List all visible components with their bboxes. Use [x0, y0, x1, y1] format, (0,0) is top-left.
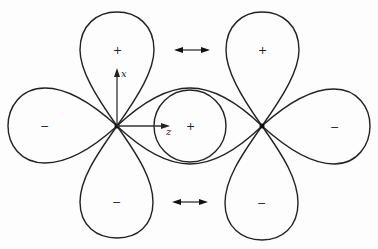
left-bottom-lobe: [80, 126, 153, 238]
left-bottom-sign: −: [112, 196, 121, 209]
right-bottom-lobe: [225, 126, 298, 240]
center-sign: +: [186, 120, 195, 133]
x-axis-label: x: [121, 68, 127, 79]
right-right-sign: −: [330, 121, 339, 134]
x-axis-arrowhead: [114, 68, 120, 77]
bottom-double-arrow: [172, 199, 208, 205]
right-right-lobe: [262, 89, 370, 164]
right-top-sign: +: [258, 44, 267, 57]
right-top-lobe: [226, 12, 299, 126]
diagram-canvas: x z + − − + + − −: [0, 0, 378, 249]
left-left-lobe: [8, 88, 117, 163]
right-bottom-sign: −: [257, 197, 266, 210]
right-nucleus: [260, 124, 265, 129]
orbital-diagram: x z + − − + + − −: [0, 0, 378, 249]
left-top-sign: +: [113, 44, 122, 57]
top-double-arrow: [174, 47, 210, 53]
z-axis-label: z: [165, 126, 172, 137]
left-left-sign: −: [40, 120, 49, 133]
